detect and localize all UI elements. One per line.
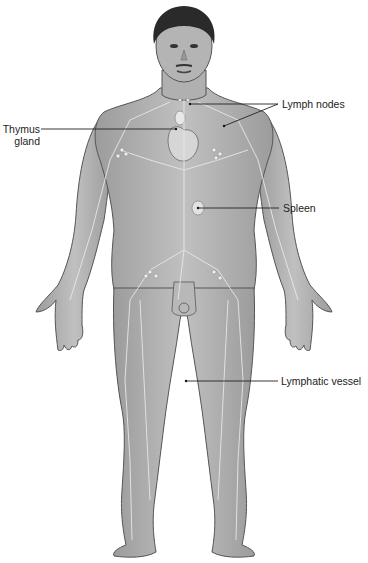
lymphatic-system-diagram: Thymus gland Lymph nodes Spleen Lymphati… [0, 0, 368, 563]
genitals [172, 282, 196, 316]
label-spleen: Spleen [283, 202, 316, 214]
label-lymphatic-vessel: Lymphatic vessel [281, 375, 361, 387]
human-body-illustration [0, 0, 368, 563]
label-thymus-line1: Thymus [0, 123, 40, 135]
label-lymph-nodes: Lymph nodes [282, 98, 345, 110]
label-thymus-gland: Thymus gland [0, 123, 40, 147]
legs [113, 288, 254, 557]
label-thymus-line2: gland [0, 135, 40, 147]
